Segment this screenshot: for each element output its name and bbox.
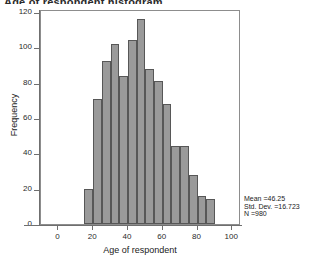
- y-tick-label: 80: [23, 78, 32, 87]
- histogram-bar: [145, 69, 154, 224]
- histogram-bar: [198, 196, 207, 224]
- y-tick-label: 100: [19, 42, 32, 51]
- y-tick-label: 120: [19, 7, 32, 16]
- histogram-bar: [102, 61, 111, 224]
- x-tick-mark: [231, 225, 232, 230]
- std-dev-label: Std. Dev. =16.723: [244, 203, 300, 211]
- y-axis-title: Frequency: [9, 75, 19, 155]
- x-tick-mark: [92, 225, 93, 230]
- y-tick-mark: [34, 13, 39, 14]
- histogram-bar: [119, 76, 128, 224]
- x-tick-mark: [57, 225, 58, 230]
- histogram-bar: [84, 189, 93, 224]
- chart-title: Age of respondent histogram: [4, 0, 234, 4]
- histogram-bar: [154, 81, 163, 224]
- x-tick-mark: [127, 225, 128, 230]
- y-tick-mark: [34, 190, 39, 191]
- histogram-bar: [171, 146, 180, 224]
- sample-size-label: N =980: [244, 210, 300, 218]
- y-tick-label: 40: [23, 148, 32, 157]
- x-tick-label: 100: [219, 232, 243, 241]
- statistics-annotation: Mean =46.25 Std. Dev. =16.723 N =980: [244, 195, 300, 218]
- y-tick-mark: [34, 119, 39, 120]
- bars-layer: [41, 11, 239, 224]
- x-tick-mark: [197, 225, 198, 230]
- histogram-bar: [206, 199, 215, 224]
- y-tick-label: 60: [23, 113, 32, 122]
- y-tick-mark: [34, 48, 39, 49]
- y-tick-mark: [34, 154, 39, 155]
- x-tick-label: 60: [150, 232, 174, 241]
- plot-inner: [41, 11, 239, 224]
- histogram-bar: [128, 40, 137, 224]
- y-tick-mark: [34, 84, 39, 85]
- histogram-bar: [137, 19, 146, 224]
- x-axis-title: Age of respondent: [40, 245, 240, 255]
- y-tick-label: 0: [28, 219, 32, 228]
- histogram-chart: Age of respondent histogram 020406080100…: [0, 0, 315, 266]
- plot-area: [40, 10, 240, 225]
- histogram-bar: [180, 146, 189, 224]
- histogram-bar: [111, 44, 120, 224]
- mean-label: Mean =46.25: [244, 195, 300, 203]
- histogram-bar: [93, 99, 102, 224]
- histogram-bar: [163, 104, 172, 224]
- x-tick-mark: [162, 225, 163, 230]
- x-tick-label: 0: [45, 232, 69, 241]
- histogram-bar: [189, 175, 198, 224]
- y-axis-line: [39, 10, 40, 226]
- x-tick-label: 20: [80, 232, 104, 241]
- x-tick-label: 80: [185, 232, 209, 241]
- y-tick-label: 20: [23, 184, 32, 193]
- x-tick-label: 40: [115, 232, 139, 241]
